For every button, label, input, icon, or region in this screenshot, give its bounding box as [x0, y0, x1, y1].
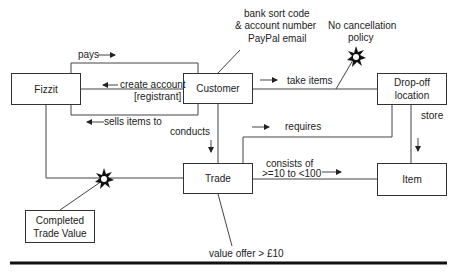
entity-fizzit: Fizzit: [11, 73, 81, 105]
ctv-label-1: Completed: [36, 214, 84, 227]
ctv-label-2: Trade Value: [33, 227, 86, 240]
label-create-account: create account: [120, 79, 186, 91]
label-consists-range: >=10 to <100: [262, 168, 321, 180]
label-sells-items-to: sells items to: [104, 116, 162, 128]
entity-customer-label: Customer: [196, 82, 239, 95]
entity-dropoff-label-2: location: [395, 89, 429, 102]
entity-fizzit-label: Fizzit: [34, 83, 57, 96]
annotation-no-cancellation-1: No cancellation: [328, 20, 396, 32]
annotation-value-offer: value offer > £10: [209, 248, 284, 260]
annotation-no-cancellation-2: policy: [348, 32, 374, 44]
label-conducts: conducts: [170, 126, 210, 138]
label-registrant: [registrant]: [134, 91, 181, 103]
entity-trade: Trade: [183, 163, 253, 194]
label-pays: pays: [78, 49, 99, 61]
entity-dropoff-location: Drop-off location: [377, 73, 447, 105]
entity-item-label: Item: [402, 173, 421, 186]
entity-completed-trade-value: Completed Trade Value: [25, 210, 95, 243]
star-icon-cancellation: [347, 46, 366, 67]
annotation-bank-1: bank sort code: [244, 8, 310, 20]
entity-customer: Customer: [183, 73, 253, 104]
label-store: store: [421, 110, 443, 122]
entity-trade-label: Trade: [205, 172, 231, 185]
label-requires: requires: [285, 121, 321, 133]
annotation-bank-2: & account number: [235, 20, 316, 32]
entity-item: Item: [377, 163, 447, 196]
entity-dropoff-label-1: Drop-off: [394, 76, 430, 89]
label-take-items: take items: [287, 75, 333, 87]
annotation-bank-3: PayPal email: [248, 33, 306, 45]
